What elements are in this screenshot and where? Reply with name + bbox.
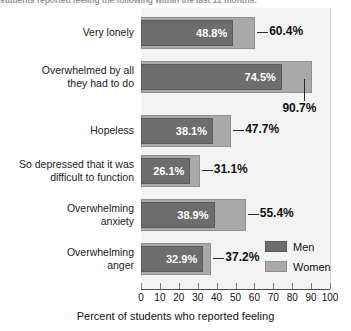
leader-line — [248, 214, 259, 215]
x-axis-tick — [254, 283, 255, 289]
x-axis-tick-label: 20 — [173, 292, 184, 303]
x-axis-line — [141, 289, 330, 290]
category-label-line: Overwhelming — [2, 246, 134, 259]
category-label-line: Hopeless — [2, 124, 134, 137]
women-value-label: 55.4% — [260, 206, 294, 220]
legend-item-men: Men — [265, 238, 331, 255]
legend-swatch-women-icon — [265, 261, 287, 272]
x-axis-tick-label: 40 — [211, 292, 222, 303]
men-value-label: 26.1% — [153, 165, 184, 177]
x-axis-tick — [273, 283, 274, 289]
x-axis-tick-label: 80 — [287, 292, 298, 303]
x-axis-tick-label: 10 — [154, 292, 165, 303]
x-axis-tick — [330, 283, 331, 289]
bar-row: Hopeless38.1%47.7% — [0, 111, 351, 151]
x-axis-tick — [292, 283, 293, 289]
x-axis-tick-label: 70 — [268, 292, 279, 303]
x-axis-tick-label: 0 — [138, 292, 144, 303]
leader-line — [202, 170, 213, 171]
category-label-line: Very lonely — [2, 26, 134, 39]
bar-men: 38.1% — [141, 118, 213, 144]
legend-item-women: Women — [265, 258, 331, 275]
x-axis-tick — [198, 283, 199, 289]
bar-row: So depressed that it wasdifficult to fun… — [0, 151, 351, 191]
category-label-line: difficult to function — [2, 171, 134, 184]
men-value-label: 74.5% — [245, 71, 276, 83]
women-value-label: 37.2% — [225, 250, 259, 264]
category-label-line: So depressed that it was — [2, 158, 134, 171]
x-axis-tick — [311, 283, 312, 289]
x-axis-tick — [179, 283, 180, 289]
x-axis-tick — [141, 283, 142, 289]
x-axis-tick — [217, 283, 218, 289]
x-axis-tick-label: 100 — [322, 292, 339, 303]
legend-label-women: Women — [293, 261, 331, 273]
x-axis-tick-label: 90 — [306, 292, 317, 303]
women-value-label: 31.1% — [214, 162, 248, 176]
men-value-label: 38.9% — [177, 209, 208, 221]
chart-headline: students reported feeling the following … — [0, 0, 351, 7]
category-label-line: anxiety — [2, 215, 134, 228]
bar-men: 32.9% — [141, 246, 203, 272]
bar-row: Overwhelminganxiety38.9%55.4% — [0, 195, 351, 235]
chart-legend: Men Women — [265, 238, 331, 278]
category-label: Hopeless — [2, 124, 134, 137]
leader-line — [213, 258, 224, 259]
x-axis-tick-label: 50 — [230, 292, 241, 303]
women-value-label: 47.7% — [245, 122, 279, 136]
category-label-line: Overwhelmed by all — [2, 64, 134, 77]
category-label-line: they had to do — [2, 77, 134, 90]
men-value-label: 32.9% — [166, 253, 197, 265]
x-axis-tick — [160, 283, 161, 289]
men-value-label: 38.1% — [176, 125, 207, 137]
bar-men: 26.1% — [141, 158, 190, 184]
category-label: Overwhelmed by allthey had to do — [2, 64, 134, 89]
x-axis-title: Percent of students who reported feeling — [0, 310, 351, 322]
category-label-line: anger — [2, 259, 134, 272]
category-label-line: Overwhelming — [2, 202, 134, 215]
x-axis-tick-label: 30 — [192, 292, 203, 303]
bar-men: 38.9% — [141, 202, 215, 228]
category-label: Overwhelminganxiety — [2, 202, 134, 227]
bar-men: 48.8% — [141, 20, 233, 46]
men-value-label: 48.8% — [196, 27, 227, 39]
legend-label-men: Men — [293, 241, 314, 253]
category-label: So depressed that it wasdifficult to fun… — [2, 158, 134, 183]
bar-row: Overwhelmed by allthey had to do74.5%90.… — [0, 57, 351, 97]
x-axis-tick-label: 60 — [249, 292, 260, 303]
leader-line — [233, 130, 244, 131]
bar-chart: students reported feeling the following … — [0, 0, 351, 331]
category-label: Overwhelminganger — [2, 246, 134, 271]
leader-line — [257, 32, 268, 33]
leader-line — [304, 79, 305, 101]
women-value-label: 60.4% — [269, 24, 303, 38]
bar-men: 74.5% — [141, 64, 282, 90]
category-label: Very lonely — [2, 26, 134, 39]
bar-row: Very lonely48.8%60.4% — [0, 13, 351, 53]
x-axis-tick — [236, 283, 237, 289]
legend-swatch-men-icon — [265, 241, 287, 252]
